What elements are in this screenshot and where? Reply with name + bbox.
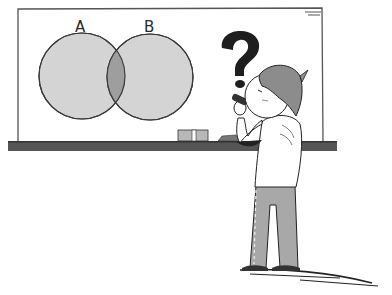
set-a-label: A (75, 20, 85, 35)
illustration: A B (0, 0, 392, 295)
set-b-label: B (144, 20, 154, 35)
whiteboard-scene (0, 0, 392, 295)
